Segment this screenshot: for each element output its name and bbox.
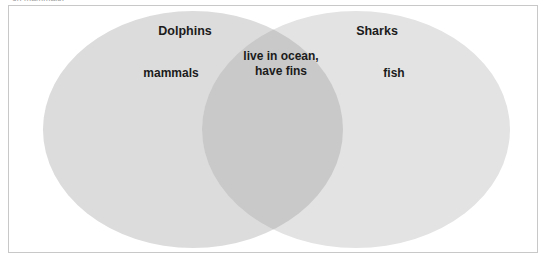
right-set-unique-label: fish bbox=[348, 66, 440, 80]
right-set-title: Sharks bbox=[327, 24, 427, 39]
venn-diagram bbox=[0, 0, 546, 264]
left-set-unique-label: mammals bbox=[113, 66, 229, 80]
left-set-title: Dolphins bbox=[130, 24, 240, 39]
intersection-label: live in ocean, have fins bbox=[232, 49, 330, 79]
